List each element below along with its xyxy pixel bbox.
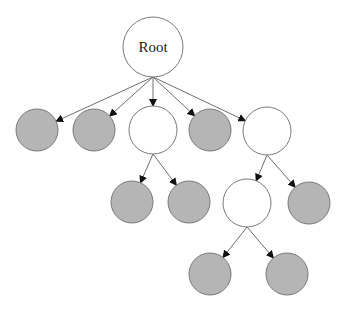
tree-diagram: Root (0, 0, 345, 311)
node-n5b (288, 182, 330, 224)
internal-node-circle (243, 107, 291, 155)
node-n4 (189, 109, 231, 151)
node-n5 (243, 107, 291, 155)
edges-layer (56, 77, 295, 258)
edge-n5-to-n5a (256, 155, 267, 181)
leaf-node-circle (168, 181, 210, 223)
node-n3b (168, 181, 210, 223)
leaf-node-circle (189, 109, 231, 151)
leaf-node-circle (266, 253, 308, 295)
edge-n5-to-n5b (267, 155, 295, 187)
node-n1 (16, 109, 58, 151)
leaf-node-circle (16, 109, 58, 151)
tree-svg: Root (0, 0, 345, 311)
leaf-node-circle (189, 253, 231, 295)
leaf-node-circle (111, 181, 153, 223)
leaf-node-circle (73, 109, 115, 151)
edge-n5a-to-n5a1 (223, 227, 247, 257)
nodes-layer: Root (16, 17, 330, 295)
edge-n3-to-n3a (140, 154, 153, 183)
internal-node-circle (223, 179, 271, 227)
node-n3a (111, 181, 153, 223)
node-n5a1 (189, 253, 231, 295)
edge-n5a-to-n5a2 (247, 227, 273, 258)
node-n3 (129, 106, 177, 154)
internal-node-circle (129, 106, 177, 154)
leaf-node-circle (288, 182, 330, 224)
edge-n3-to-n3b (153, 154, 176, 185)
node-root: Root (123, 17, 183, 77)
node-n2 (73, 109, 115, 151)
node-label-root: Root (138, 39, 168, 55)
node-n5a (223, 179, 271, 227)
node-n5a2 (266, 253, 308, 295)
